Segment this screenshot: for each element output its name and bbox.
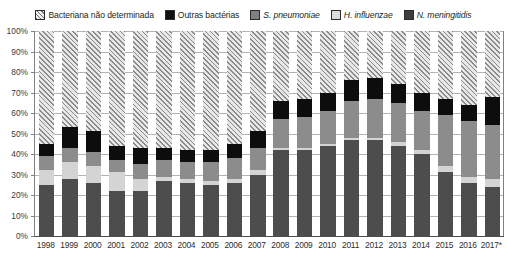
gridline-20% [35, 195, 504, 196]
x-tick-label-2000: 2000 [81, 241, 104, 250]
bar-segment-bnd [320, 31, 335, 93]
x-tick-label-2013: 2013 [386, 241, 409, 250]
legend-label-hi: H. influenzae [344, 10, 393, 20]
bar-segment-bnd [297, 31, 312, 99]
bar-segment-ob [203, 150, 218, 162]
bar-segment-sp [156, 160, 171, 176]
plot-area-frame [34, 31, 504, 237]
x-tick-label-2005: 2005 [198, 241, 221, 250]
bar-segment-sp [109, 160, 124, 172]
bar-segment-ob [297, 99, 312, 117]
y-tick-label-70%: 70% [0, 89, 28, 97]
bar-segment-sp [344, 101, 359, 138]
bar-segment-sp [461, 121, 476, 176]
x-tick-label-2004: 2004 [175, 241, 198, 250]
bar-2006 [227, 31, 242, 236]
bar-segment-nm [250, 175, 265, 237]
bar-segment-nm [320, 146, 335, 236]
bar-2011 [344, 31, 359, 236]
bar-segment-bnd [86, 31, 101, 131]
legend-swatch-icon-ob [165, 10, 175, 20]
bar-segment-sp [391, 103, 406, 142]
bar-segment-ob [227, 144, 242, 158]
bar-segment-ob [86, 131, 101, 152]
bar-segment-hi [109, 172, 124, 190]
bar-2013 [391, 31, 406, 236]
legend-swatch-icon-sp [250, 10, 260, 20]
bar-segment-sp [250, 148, 265, 171]
bar-segment-sp [180, 162, 195, 178]
bar-2001 [109, 31, 124, 236]
y-tick-label-20%: 20% [0, 191, 28, 199]
bar-segment-sp [297, 117, 312, 148]
bar-segment-ob [344, 80, 359, 101]
bar-segment-nm [62, 179, 77, 236]
bar-segment-ob [180, 150, 195, 162]
bar-2008 [273, 31, 288, 236]
bar-1998 [39, 31, 54, 236]
bar-segment-ob [250, 131, 265, 147]
bar-segment-ob [438, 99, 453, 115]
bar-segment-bnd [133, 31, 148, 148]
bar-segment-ob [391, 84, 406, 102]
bar-segment-bnd [344, 31, 359, 80]
x-tick-label-2010: 2010 [315, 241, 338, 250]
bar-segment-sp [203, 162, 218, 180]
bar-2017 [485, 31, 500, 236]
bar-segment-nm [39, 185, 54, 236]
bar-2005 [203, 31, 218, 236]
bar-2000 [86, 31, 101, 236]
bar-segment-bnd [438, 31, 453, 99]
bar-segment-ob [133, 148, 148, 164]
legend-swatch-icon-nm [404, 10, 414, 20]
x-tick-label-2016: 2016 [456, 241, 479, 250]
bar-segment-sp [62, 148, 77, 162]
gridline-40% [35, 154, 504, 155]
legend-label-ob: Outras bactérias [178, 10, 239, 20]
x-tick-label-2015: 2015 [433, 241, 456, 250]
bar-segment-sp [367, 99, 382, 138]
bar-2015 [438, 31, 453, 236]
x-tick-label-2009: 2009 [292, 241, 315, 250]
bar-segment-sp [133, 164, 148, 178]
bar-segment-bnd [109, 31, 124, 146]
y-tick-label-40%: 40% [0, 150, 28, 158]
stacked-bar-chart: Bacteriana não determinadaOutras bactéri… [0, 0, 507, 264]
legend-item-bnd: Bacteriana não determinada [35, 10, 153, 20]
bar-segment-nm [180, 183, 195, 236]
x-tick-label-2011: 2011 [339, 241, 362, 250]
x-tick-label-2002: 2002 [128, 241, 151, 250]
gridline-100% [35, 31, 504, 32]
y-tick-label-80%: 80% [0, 68, 28, 76]
bar-segment-ob [485, 97, 500, 126]
bar-segment-nm [133, 191, 148, 236]
bar-segment-ob [156, 148, 171, 160]
bar-segment-nm [109, 191, 124, 236]
bar-segment-nm [156, 181, 171, 236]
y-tick-label-90%: 90% [0, 48, 28, 56]
legend-label-sp: S. pneumoniae [263, 10, 320, 20]
y-tick-label-100%: 100% [0, 27, 28, 35]
bar-segment-hi [133, 179, 148, 191]
bar-2004 [180, 31, 195, 236]
x-tick-label-1998: 1998 [34, 241, 57, 250]
bar-segment-hi [62, 162, 77, 178]
legend-item-hi: H. influenzae [331, 10, 393, 20]
x-tick-label-2003: 2003 [151, 241, 174, 250]
bar-segment-bnd [414, 31, 429, 93]
bar-segment-nm [203, 185, 218, 236]
bar-segment-bnd [156, 31, 171, 148]
bar-segment-nm [227, 183, 242, 236]
bar-segment-sp [86, 152, 101, 166]
bar-segment-ob [367, 78, 382, 99]
y-tick-label-60%: 60% [0, 109, 28, 117]
legend-item-ob: Outras bactérias [165, 10, 239, 20]
bar-segment-sp [414, 111, 429, 150]
bar-segment-nm [438, 172, 453, 236]
bar-segment-nm [297, 150, 312, 236]
gridline-30% [35, 175, 504, 176]
gridline-70% [35, 93, 504, 94]
bar-segment-bnd [203, 31, 218, 150]
bar-segment-hi [86, 166, 101, 182]
bar-segment-nm [485, 187, 500, 236]
